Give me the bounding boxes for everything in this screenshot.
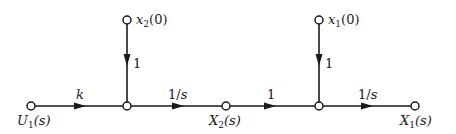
- gain-a-x2: 1/s: [168, 87, 188, 102]
- arrow-icon: [172, 103, 184, 110]
- arrow-icon: [264, 103, 276, 110]
- node-x1-initial: [315, 16, 323, 24]
- node-x2-initial: [123, 16, 131, 24]
- gain-x1-initial: 1: [325, 56, 333, 71]
- gain-x2-b: 1: [267, 87, 275, 102]
- node-x2: [222, 102, 230, 110]
- arrow-icon: [361, 103, 373, 110]
- arrow-icon: [124, 54, 131, 66]
- node-label-u1: U1(s): [17, 113, 51, 130]
- gain-k: k: [76, 87, 84, 102]
- arrow-icon: [316, 54, 323, 66]
- node-x1: [411, 102, 419, 110]
- gain-b-x1: 1/s: [358, 87, 378, 102]
- gain-x2-initial: 1: [133, 56, 141, 71]
- node-b: [315, 102, 323, 110]
- signal-flow-graph: U1(s) x2(0) X2(s) x1(0) X1(s) k 1 1/s 1 …: [0, 0, 456, 134]
- node-a: [123, 102, 131, 110]
- node-label-x1-initial: x1(0): [328, 12, 360, 29]
- arrow-icon: [74, 103, 86, 110]
- node-label-x2-initial: x2(0): [136, 12, 168, 29]
- node-label-x1: X1(s): [399, 113, 432, 130]
- node-label-x2: X2(s): [208, 113, 241, 130]
- node-u1: [27, 102, 35, 110]
